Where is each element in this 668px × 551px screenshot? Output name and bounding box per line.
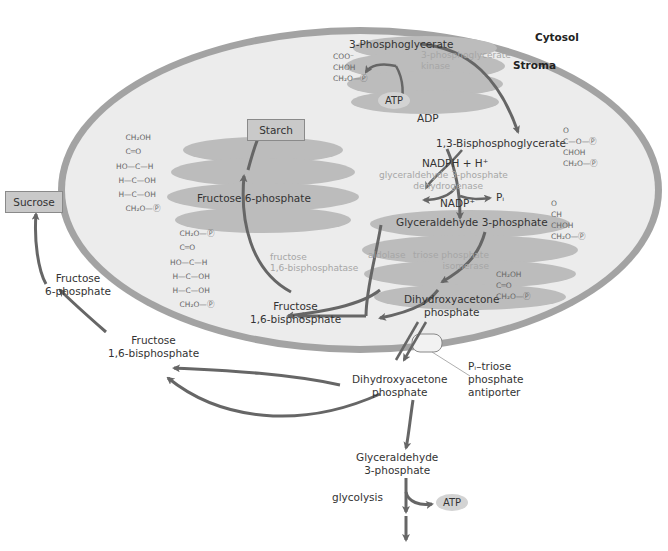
g3p-cytosol-label: Glyceraldehyde 3-phosphate bbox=[356, 451, 438, 477]
pi-label: Pᵢ bbox=[496, 191, 504, 204]
bpg-label: 1,3-Bisphosphoglycerate bbox=[436, 137, 566, 150]
adp-label: ADP bbox=[417, 112, 439, 125]
g3p-label: Glyceraldehyde 3-phosphate bbox=[396, 216, 548, 229]
fbp-stroma-label: Fructose 1,6-bisphosphate bbox=[250, 300, 341, 326]
nadp-label: NADP⁺ bbox=[440, 197, 475, 210]
pga-structure: COO⁻CHOHCH₂O—Ⓟ bbox=[333, 52, 367, 85]
antiporter-label: Pᵢ–triose phosphate antiporter bbox=[468, 360, 524, 399]
dhap-structure: CH₂OHC═OCH₂O—Ⓟ bbox=[496, 270, 530, 303]
glycolysis-label: glycolysis bbox=[332, 491, 383, 504]
fbp-structure: CH₂O—Ⓟ C═OHO—C—H H—C—OH H—C—OH CH₂O—Ⓟ bbox=[170, 227, 214, 313]
stroma-label: Stroma bbox=[513, 59, 556, 72]
f6p-cytosol-label: Fructose 6-phosphate bbox=[45, 272, 111, 298]
atp-badge: ATP bbox=[378, 92, 410, 109]
f6p-stroma-label: Fructose 6-phosphate bbox=[197, 192, 311, 205]
dhap-cytosol-label: Dihydroxyacetone phosphate bbox=[352, 373, 447, 399]
cytosol-label: Cytosol bbox=[535, 31, 579, 44]
bpg-structure: OC—O—ⓅCHOHCH₂O—Ⓟ bbox=[563, 126, 597, 170]
atp-cytosol-badge: ATP bbox=[436, 494, 468, 511]
g3p-structure: OCHCHOHCH₂O—Ⓟ bbox=[551, 199, 585, 243]
pga-kinase-label: 3-phosphoglycerate kinase bbox=[421, 50, 511, 73]
fbpase-label: fructose 1,6-bisphosphatase bbox=[270, 252, 358, 275]
starch-box: Starch bbox=[247, 119, 305, 141]
nadph-label: NADPH + H⁺ bbox=[422, 157, 488, 170]
f6p-structure: CH₂OH C═OHO—C—H H—C—OH H—C—OH CH₂O—Ⓟ bbox=[116, 131, 160, 217]
aldolase-label: aldolase bbox=[368, 250, 405, 261]
g3p-dehydrogenase-label: glyceraldehyde 3-phosphate dehydrogenase bbox=[379, 170, 483, 193]
sucrose-box: Sucrose bbox=[5, 191, 63, 213]
fbp-cytosol-label: Fructose 1,6-bisphosphate bbox=[108, 334, 199, 360]
dhap-stroma-label: Dihydroxyacetone phosphate bbox=[404, 293, 499, 319]
tpi-label: triose phosphate isomerase bbox=[413, 250, 489, 273]
